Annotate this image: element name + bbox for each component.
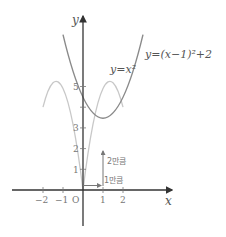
horizontal-shift-label: 1만큼 — [104, 176, 123, 185]
origin-label: O — [72, 195, 79, 205]
x-axis-label: x — [165, 194, 172, 208]
x-tick-neg1: −1 — [55, 195, 68, 205]
y-tick-2: 2 — [73, 144, 79, 154]
y-tick-5: 5 — [73, 82, 79, 92]
x-tick-1: 1 — [100, 195, 106, 205]
y-axis-label: y — [71, 13, 79, 27]
curve-shifted-parabola — [63, 35, 143, 119]
label-shifted-parabola: y=(x−1)²+2 — [144, 48, 212, 61]
y-tick-3: 3 — [73, 123, 79, 133]
label-y-eq-x-squared: y=x² — [109, 63, 136, 76]
y-tick-1: 1 — [73, 165, 79, 175]
graph-canvas: −2 −1 O 1 2 1 2 3 5 x y y=x² y=(x−1)²+2 … — [0, 0, 226, 237]
vertical-shift-label: 2만큼 — [107, 157, 126, 166]
x-tick-neg2: −2 — [35, 195, 48, 205]
x-tick-2: 2 — [120, 195, 126, 205]
